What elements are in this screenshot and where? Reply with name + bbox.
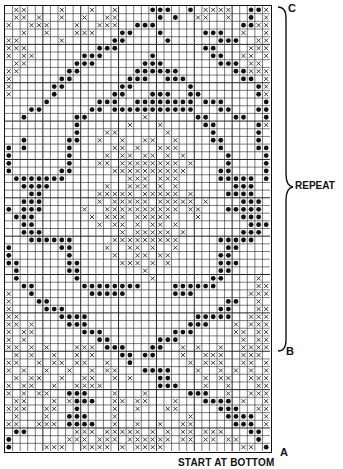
repeat-brace-icon bbox=[276, 4, 298, 354]
marker-c: C bbox=[288, 2, 296, 14]
knitting-chart-grid bbox=[4, 5, 272, 453]
marker-b: B bbox=[286, 345, 294, 357]
start-at-bottom-label: START AT BOTTOM bbox=[178, 457, 275, 468]
repeat-label: REPEAT bbox=[295, 180, 335, 191]
marker-a: A bbox=[280, 446, 288, 458]
chart-cells bbox=[5, 6, 270, 451]
